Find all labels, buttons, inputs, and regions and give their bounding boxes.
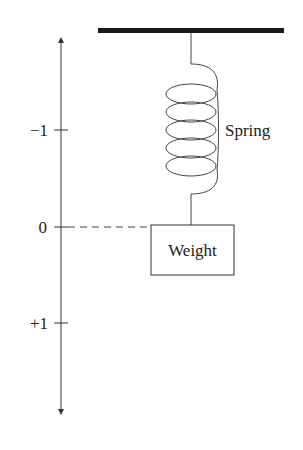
tick-label-0: 0 (39, 218, 48, 237)
spring-mass-diagram: −1 0 +1 Spring Weight (0, 0, 303, 450)
weight-label: Weight (168, 241, 217, 260)
tick-label-plus-1: +1 (30, 314, 48, 333)
tick-label-minus-1: −1 (30, 121, 48, 140)
ceiling-bar (98, 28, 284, 33)
spring-label: Spring (225, 121, 271, 140)
spring (166, 33, 219, 225)
